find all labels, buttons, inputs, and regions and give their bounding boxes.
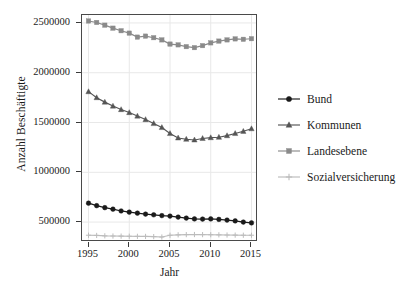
x-tick-mark xyxy=(88,242,89,247)
legend-marker-square-icon xyxy=(276,141,302,161)
y-tick-label: 2000000 xyxy=(8,66,70,77)
x-tick-label: 2005 xyxy=(147,248,191,259)
x-tick-label: 1995 xyxy=(66,248,110,259)
y-axis-tick-labels: 5000001000000150000020000002500000 xyxy=(8,0,70,290)
x-tick-mark xyxy=(169,242,170,247)
y-tick-mark xyxy=(76,122,81,123)
plot-panel xyxy=(81,14,257,241)
chart-legend: Bund Kommunen Landesebene Sozialversiche… xyxy=(276,86,409,190)
legend-label: Sozialversicherung xyxy=(302,171,395,183)
x-tick-label: 2015 xyxy=(228,248,272,259)
chart-figure: Anzahl Beschäftigte 50000010000001500000… xyxy=(0,0,411,290)
legend-item-kommunen[interactable]: Kommunen xyxy=(276,112,409,138)
y-tick-label: 1500000 xyxy=(8,116,70,127)
y-tick-mark xyxy=(76,171,81,172)
x-tick-label: 2000 xyxy=(106,248,150,259)
plot-area-svg xyxy=(82,15,257,241)
x-tick-mark xyxy=(128,242,129,247)
legend-label: Kommunen xyxy=(302,119,361,131)
y-tick-label: 500000 xyxy=(8,215,70,226)
legend-item-landesebene[interactable]: Landesebene xyxy=(276,138,409,164)
legend-item-sozialversicherung[interactable]: Sozialversicherung xyxy=(276,164,409,190)
x-axis-title: Jahr xyxy=(81,266,258,278)
y-tick-mark xyxy=(76,221,81,222)
legend-label: Bund xyxy=(302,93,332,105)
legend-marker-triangle-icon xyxy=(276,115,302,135)
x-tick-mark xyxy=(210,242,211,247)
x-tick-label: 2010 xyxy=(188,248,232,259)
legend-marker-plus-icon xyxy=(276,167,302,187)
y-tick-mark xyxy=(76,72,81,73)
legend-item-bund[interactable]: Bund xyxy=(276,86,409,112)
x-tick-mark xyxy=(250,242,251,247)
y-tick-label: 1000000 xyxy=(8,165,70,176)
legend-marker-circle-icon xyxy=(276,89,302,109)
legend-label: Landesebene xyxy=(302,145,367,157)
y-tick-label: 2500000 xyxy=(8,16,70,27)
y-tick-mark xyxy=(76,22,81,23)
